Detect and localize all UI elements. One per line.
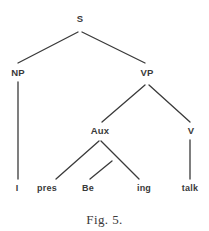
tree-edge-vp-to-v (149, 85, 190, 122)
tree-edge-aux-to-t-be (90, 161, 112, 179)
tree-edge-group (18, 32, 190, 179)
tree-diagram-svg (0, 0, 209, 231)
tree-edge-aux-to-t-pres (56, 141, 99, 179)
tree-node-v: V (188, 126, 195, 136)
tree-edge-s-to-np (18, 32, 78, 63)
tree-terminal-t-i: I (16, 184, 19, 193)
tree-terminal-t-ing: ing (137, 184, 151, 193)
tree-node-s: S (77, 14, 84, 24)
tree-edge-s-to-vp (82, 32, 145, 63)
tree-terminal-t-be: Be (82, 184, 94, 193)
tree-edge-vp-to-aux (102, 85, 145, 122)
figure-container: SNPVPAuxV IpresBeingtalk Fig. 5. (0, 0, 209, 231)
tree-terminal-t-talk: talk (182, 184, 198, 193)
tree-terminal-t-pres: pres (37, 184, 57, 193)
tree-node-aux: Aux (91, 126, 110, 136)
tree-node-np: NP (11, 68, 25, 78)
figure-caption: Fig. 5. (0, 213, 209, 226)
tree-edge-aux-to-t-ing (101, 141, 139, 179)
tree-node-vp: VP (140, 68, 153, 78)
